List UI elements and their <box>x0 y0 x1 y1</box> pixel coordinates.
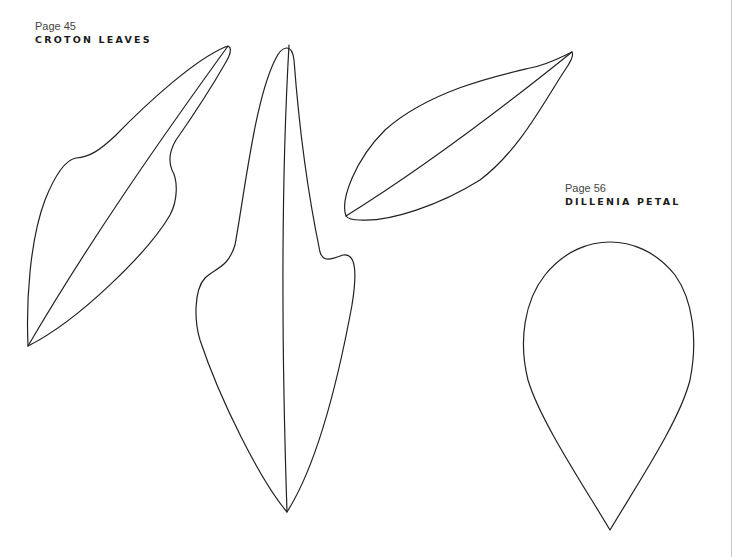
croton-leaf-1 <box>28 46 231 346</box>
croton-leaf-3 <box>345 52 573 220</box>
dillenia-petal <box>523 242 693 530</box>
template-canvas <box>0 0 735 557</box>
croton-leaf-2 <box>196 45 355 512</box>
